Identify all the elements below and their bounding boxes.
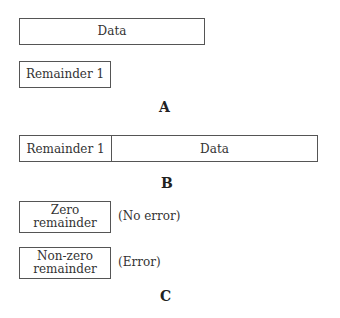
remainder-cell: Remainder 1 (20, 136, 111, 161)
zero-remainder-line2: remainder (33, 217, 96, 230)
remainder-cell-label: Remainder 1 (26, 142, 104, 156)
error-note: (Error) (118, 255, 161, 269)
data-cell: Data (111, 136, 317, 161)
remainder-box: Remainder 1 (19, 61, 111, 88)
data-cell-label: Data (200, 142, 229, 156)
data-box: Data (19, 18, 205, 45)
nonzero-remainder-line2: remainder (33, 263, 96, 276)
panel-label-b: B (161, 175, 173, 191)
zero-remainder-box: Zero remainder (19, 201, 111, 233)
panel-label-a: A (159, 99, 170, 115)
remainder-box-label: Remainder 1 (26, 68, 104, 81)
nonzero-remainder-box: Non-zero remainder (19, 247, 111, 279)
panel-label-c: C (160, 288, 171, 304)
appended-data-row: Remainder 1 Data (19, 135, 318, 162)
no-error-note: (No error) (118, 209, 180, 223)
data-box-label: Data (98, 25, 127, 38)
